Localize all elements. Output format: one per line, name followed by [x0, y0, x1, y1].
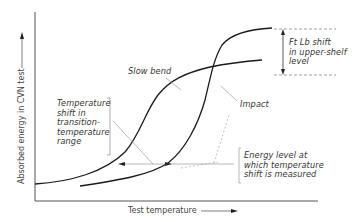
- y-axis-label: Absorbed energy in CVN test: [17, 68, 26, 184]
- temperature-shift-label: Temperature shift in transition- tempera…: [57, 99, 111, 147]
- energy-level-label: Energy level at which temperature shift …: [244, 151, 324, 180]
- y-axis-arrow-icon: [20, 32, 24, 39]
- upper-shelf-shift-label: Ft Lb shift in upper-shelf level: [289, 38, 347, 67]
- arrowhead-up-icon: [281, 29, 285, 35]
- impact-label: Impact: [240, 100, 269, 110]
- x-axis-arrow-icon: [231, 209, 238, 213]
- x-axis-label: Test temperature: [128, 206, 197, 215]
- impact-leader: [221, 86, 237, 101]
- energy-level-bracket: [239, 148, 241, 183]
- energy-level-line-3: shift is measured: [244, 170, 324, 180]
- temp-shift-line-5: range: [57, 137, 111, 147]
- tangent-dashed-2: [214, 115, 229, 163]
- diagram-canvas: [0, 0, 363, 222]
- arrowhead-left-icon: [118, 162, 125, 166]
- arrowhead-down-icon: [281, 69, 285, 75]
- upper-shelf-line-3: level: [289, 57, 347, 67]
- slow-bend-label: Slow bend: [128, 67, 171, 77]
- tangent-dashed-1: [181, 162, 218, 168]
